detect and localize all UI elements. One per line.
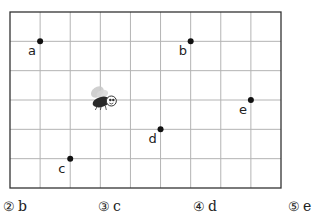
point-b — [188, 38, 194, 44]
point-a — [37, 38, 43, 44]
point-label-c: c — [58, 162, 65, 175]
option-number: ② — [3, 199, 15, 214]
point-label-a: a — [28, 44, 36, 57]
option-label: d — [208, 198, 217, 214]
answer-options: ②b ③c ④d ⑤e — [0, 198, 315, 218]
option-number: ③ — [98, 199, 110, 214]
option-label: e — [303, 198, 311, 214]
option-e[interactable]: ⑤e — [288, 198, 311, 214]
coordinate-grid — [0, 0, 315, 195]
option-b[interactable]: ②b — [3, 198, 27, 214]
point-label-b: b — [179, 44, 187, 57]
point-e — [248, 97, 254, 103]
option-label: b — [18, 198, 27, 214]
option-d[interactable]: ④d — [193, 198, 217, 214]
option-c[interactable]: ③c — [98, 198, 121, 214]
point-c — [67, 156, 73, 162]
option-label: c — [113, 198, 121, 214]
option-number: ④ — [193, 199, 205, 214]
option-number: ⑤ — [288, 199, 300, 214]
fly-icon — [89, 84, 117, 110]
point-label-e: e — [239, 103, 247, 116]
point-d — [158, 126, 164, 132]
point-label-d: d — [149, 132, 157, 145]
